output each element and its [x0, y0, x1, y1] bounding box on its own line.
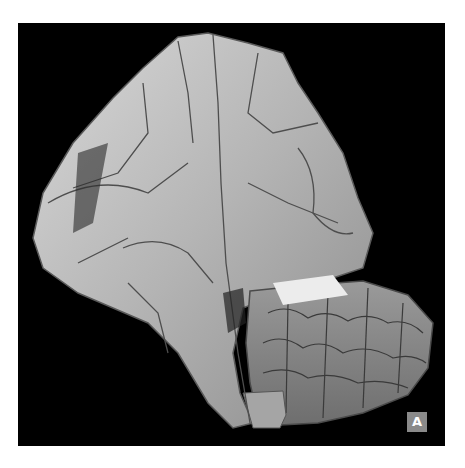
- fossil-specimen-image: [18, 23, 445, 446]
- specimen-photo: [18, 23, 445, 446]
- panel-label: A: [407, 412, 427, 432]
